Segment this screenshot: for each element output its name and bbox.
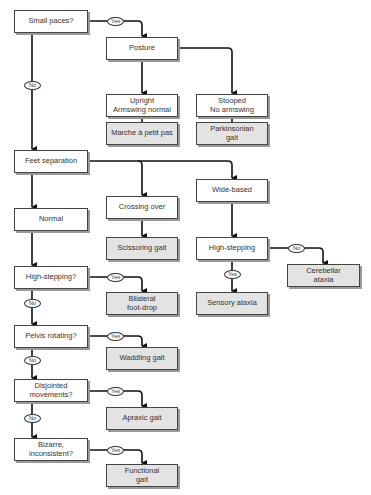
node-upright-armswing-normal: Upright Armswing normal bbox=[106, 94, 178, 117]
node-posture: Posture bbox=[106, 37, 178, 60]
node-small-paces: Small paces? bbox=[14, 10, 88, 33]
node-pelvis-rotating: Pelvis rotating? bbox=[14, 325, 88, 348]
label-yes-pelvis: Yes bbox=[107, 332, 124, 341]
node-disjointed-movements: Disjointed movements? bbox=[14, 379, 88, 402]
node-high-stepping: High-stepping bbox=[196, 237, 268, 260]
node-wide-based: Wide-based bbox=[196, 179, 268, 202]
outcome-marche-a-petit-pas: Marche à petit pas bbox=[106, 122, 178, 145]
outcome-bilateral-foot-drop: Bilateral foot-drop bbox=[106, 292, 178, 315]
outcome-sensory-ataxia: Sensory ataxia bbox=[196, 292, 268, 315]
flowchart: Small paces? Feet separation Normal High… bbox=[0, 0, 371, 495]
label-yes-small-paces: Yes bbox=[107, 17, 124, 26]
node-feet-separation: Feet separation bbox=[14, 150, 88, 173]
label-yes-high-stepping: Yes bbox=[224, 270, 241, 279]
node-stooped-no-armswing: Stooped No armswing bbox=[196, 94, 268, 117]
outcome-parkinsonian-gait: Parkinsonian gait bbox=[196, 122, 268, 145]
node-normal: Normal bbox=[14, 208, 88, 231]
label-no-disjointed: No bbox=[24, 414, 41, 423]
label-no-pelvis: No bbox=[24, 356, 41, 365]
label-yes-bizarre: Yes bbox=[107, 446, 124, 455]
label-no-small-paces: No bbox=[24, 81, 41, 90]
outcome-scissoring-gait: Scissoring gait bbox=[106, 237, 178, 260]
label-no-high-stepping: No bbox=[288, 244, 305, 253]
node-bizarre-inconsistent: Bizarre, inconsistent? bbox=[14, 438, 88, 461]
outcome-cerebellar-ataxia: Cerebellar ataxia bbox=[287, 264, 360, 287]
node-high-stepping-question: High-stepping? bbox=[14, 266, 88, 289]
outcome-apraxic-gait: Apraxic gait bbox=[106, 407, 178, 430]
outcome-waddling-gait: Waddling gait bbox=[106, 347, 178, 370]
connector-lines bbox=[0, 0, 371, 495]
label-no-high-stepping-question: No bbox=[24, 299, 41, 308]
node-crossing-over: Crossing over bbox=[106, 196, 178, 219]
label-yes-high-stepping-question: Yes bbox=[107, 273, 124, 282]
outcome-functional-gait: Functional gait bbox=[106, 464, 178, 487]
label-yes-disjointed: Yes bbox=[107, 387, 124, 396]
